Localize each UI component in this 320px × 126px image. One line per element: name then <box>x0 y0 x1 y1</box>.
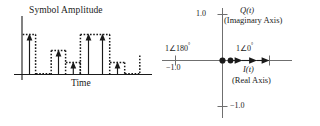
phasor-label-0: 1∠0° <box>236 43 253 53</box>
constellation-point-origin <box>219 57 225 63</box>
time-label: Time <box>71 79 91 89</box>
i-axis-sublabel: (Real Axis) <box>232 76 271 85</box>
tick-label-q-negative-one: −1.0 <box>230 102 245 110</box>
constellation-panel: 1.0 −1.0 −1.0 Q(t) (Imaginary Axis) I(t)… <box>160 0 320 126</box>
phasor-label-0-text: 1∠0 <box>236 44 251 53</box>
tick-label-i-negative-one: −1.0 <box>166 64 181 72</box>
phasor-label-180: 1∠180° <box>165 43 190 53</box>
amplitude-arrow-7 <box>115 62 121 75</box>
amplitude-arrow-6 <box>100 34 106 75</box>
q-axis-sublabel: (Imaginary Axis) <box>224 16 282 25</box>
degree-sign-180: ° <box>188 42 190 48</box>
amplitude-arrows <box>27 34 121 75</box>
degree-sign-0: ° <box>251 42 253 48</box>
amplitude-arrow-4 <box>70 62 76 75</box>
phasor-label-180-text: 1∠180 <box>165 44 188 53</box>
symbol-amplitude-label: Symbol Amplitude <box>29 6 103 16</box>
i-axis-label: I(t) <box>243 65 254 74</box>
q-axis-label: Q(t) <box>240 6 254 15</box>
amplitude-arrow-3 <box>56 50 62 75</box>
tick-label-q-positive-one: 1.0 <box>196 10 206 18</box>
constellation-arrows <box>235 57 270 63</box>
amplitude-arrow-5 <box>86 34 92 75</box>
symbol-envelope-dashed <box>23 35 140 75</box>
figure-root: Symbol Amplitude Time <box>0 0 320 126</box>
amplitude-arrow-1 <box>27 34 33 75</box>
symbol-amplitude-svg <box>0 0 160 126</box>
symbol-amplitude-panel: Symbol Amplitude Time <box>0 0 160 126</box>
